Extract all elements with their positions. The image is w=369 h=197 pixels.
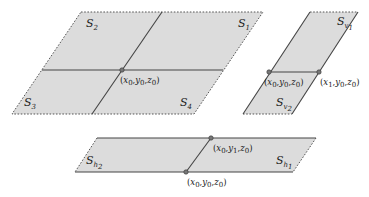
point-y1 [209, 136, 213, 140]
point-y0 [184, 170, 188, 174]
point-label-x1y0z0: (x1,y0,z0) [320, 77, 360, 89]
center-point [120, 68, 124, 72]
point-label-x0y0z0-h: (x0,y0,z0) [187, 177, 227, 189]
horizontal-split-panel: Sh2 Sh1 (x0,y1,z0) (x0,y0,z0) [75, 136, 316, 189]
plane-quad-fill [12, 12, 263, 114]
quad-split-panel: S2 S1 S3 S4 (x0,y0,z0) [12, 12, 263, 114]
diagram-canvas: S2 S1 S3 S4 (x0,y0,z0) Sv1 Sv2 (x0,y0,z0… [0, 0, 369, 197]
point-x1 [317, 70, 321, 74]
point-x0 [267, 70, 271, 74]
vertical-split-panel: Sv1 Sv2 (x0,y0,z0) (x1,y0,z0) [243, 12, 360, 114]
